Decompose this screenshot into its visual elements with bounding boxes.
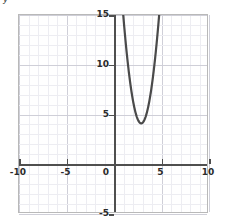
- y-axis-tick: [109, 214, 114, 216]
- gridline-vertical-major: [209, 15, 210, 212]
- y-tick-label: 5: [91, 109, 109, 119]
- y-tick-label: 15: [91, 9, 109, 19]
- x-tick-label: -10: [10, 167, 26, 177]
- x-tick-label: -5: [61, 167, 71, 177]
- parabola-path: [123, 15, 159, 123]
- x-tick-label: 10: [202, 167, 215, 177]
- x-tick-label: 5: [157, 167, 163, 177]
- origin-label: 0: [91, 167, 109, 177]
- plot-area: [18, 14, 208, 213]
- parabola-svg: [19, 15, 207, 212]
- y-axis-caption: y: [3, 0, 8, 4]
- y-tick-label: 10: [91, 59, 109, 69]
- parabola-curve: [19, 15, 207, 212]
- y-tick-label: -5: [91, 208, 109, 218]
- graph-figure: y -10-5510-5510150: [0, 0, 225, 224]
- x-axis-tick: [209, 159, 211, 164]
